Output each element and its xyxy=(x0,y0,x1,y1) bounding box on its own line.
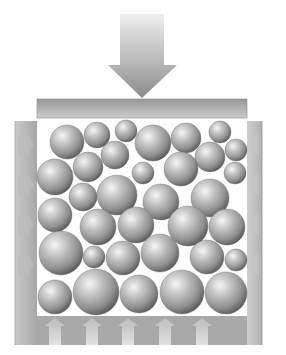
sphere xyxy=(38,198,72,232)
sphere xyxy=(115,120,137,142)
sphere xyxy=(135,125,171,161)
sphere xyxy=(39,231,83,275)
sphere xyxy=(225,139,247,161)
sphere xyxy=(106,241,140,275)
sphere xyxy=(209,121,231,143)
sphere xyxy=(195,142,225,172)
sphere xyxy=(209,209,245,245)
sphere xyxy=(225,249,247,271)
sphere xyxy=(80,209,116,245)
sphere xyxy=(224,162,246,184)
down-arrow-icon xyxy=(108,14,177,98)
container-right-wall xyxy=(247,121,262,345)
sphere xyxy=(73,269,119,315)
sphere xyxy=(141,234,179,272)
sphere xyxy=(101,141,129,169)
sphere xyxy=(120,275,158,313)
sphere xyxy=(160,270,204,314)
sphere xyxy=(132,162,154,184)
sphere xyxy=(38,280,72,314)
sphere xyxy=(171,123,201,153)
sphere xyxy=(164,152,198,186)
sphere xyxy=(69,183,97,211)
sphere xyxy=(190,240,224,274)
force-arrow xyxy=(108,14,177,98)
compaction-diagram xyxy=(0,0,286,355)
sphere xyxy=(205,272,247,314)
sphere xyxy=(83,246,105,268)
sphere xyxy=(73,152,103,182)
piston-plate xyxy=(37,99,247,118)
sphere xyxy=(50,125,84,159)
sphere xyxy=(37,159,73,195)
